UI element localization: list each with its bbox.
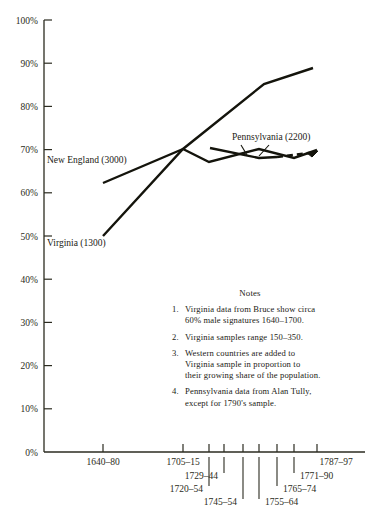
y-tick-label-80: 80% [21,102,39,112]
y-tick-label-0: 0% [25,448,38,458]
y-tick-label-50: 50% [21,232,39,242]
note-item-3: 3. Western countries are added to Virgin… [172,348,362,382]
x-tick-label-1720-54: 1720–54 [170,484,204,494]
note-item-1: 1. Virginia data from Bruce show circa 6… [172,304,362,326]
y-tick-label-10: 10% [21,404,39,414]
series-label-pennsylvania: Pennsylvania (2200) [232,132,310,143]
note-line: 60% male signatures 1640–1700. [185,315,362,326]
series-line-virginia [103,68,313,236]
note-text-4: Pennsylvania data from Alan Tully, excep… [185,386,362,408]
note-number-2: 2. [172,332,185,343]
note-text-1: Virginia data from Bruce show circa 60% … [185,304,362,326]
note-line: Western countries are added to [185,348,362,359]
series-label-new-england: New England (3000) [47,155,127,166]
note-item-4: 4. Pennsylvania data from Alan Tully, ex… [172,386,362,408]
note-line: Virginia sample in proportion to [185,359,362,370]
y-tick-label-100: 100% [16,16,38,26]
notes-block: Notes 1. Virginia data from Bruce show c… [172,288,362,414]
note-line: Virginia samples range 150–350. [185,332,362,343]
notes-title: Notes [172,288,362,299]
note-number-1: 1. [172,304,185,326]
x-tick-label-1640-80: 1640–80 [86,457,120,467]
y-tick-label-90: 90% [21,59,39,69]
note-text-3: Western countries are added to Virginia … [185,348,362,382]
y-tick-label-70: 70% [21,145,39,155]
y-tick-label-40: 40% [21,275,39,285]
y-tick-label-60: 60% [21,188,39,198]
y-tick-label-30: 30% [21,318,39,328]
y-tick-label-20: 20% [21,361,39,371]
x-tick-label-1787-97: 1787–97 [319,457,353,467]
chart-svg: 100% 90% 80% 70% 60% 50% 40% 30% 20% 10%… [0,0,365,515]
y-axis-ticks [44,20,52,409]
note-number-3: 3. [172,348,185,382]
x-axis-leader-ticks [209,457,294,499]
literacy-rate-line-chart: 100% 90% 80% 70% 60% 50% 40% 30% 20% 10%… [0,0,365,515]
note-text-2: Virginia samples range 150–350. [185,332,362,343]
note-item-2: 2. Virginia samples range 150–350. [172,332,362,343]
note-line: Pennsylvania data from Alan Tully, [185,386,362,397]
x-tick-label-1755-64: 1755–64 [265,497,299,507]
y-axis-tick-labels: 100% 90% 80% 70% 60% 50% 40% 30% 20% 10%… [16,16,38,458]
x-tick-label-1729-44: 1729–44 [185,471,219,481]
note-number-4: 4. [172,386,185,408]
x-tick-label-1771-90: 1771–90 [300,471,334,481]
x-axis-ticks-upper [103,444,317,452]
x-axis-tick-labels: 1640–80 1705–15 1787–97 1729–44 1771–90 … [86,457,353,507]
series-label-virginia: Virginia (1300) [47,238,106,249]
x-tick-label-1765-74: 1765–74 [283,484,317,494]
x-tick-label-1745-54: 1745–54 [204,497,238,507]
note-line: except for 1790's sample. [185,398,362,409]
note-line: Virginia data from Bruce show circa [185,304,362,315]
note-line: their growing share of the population. [185,370,362,381]
x-tick-label-1705-15: 1705–15 [166,457,200,467]
series-line-new-england [103,149,317,183]
